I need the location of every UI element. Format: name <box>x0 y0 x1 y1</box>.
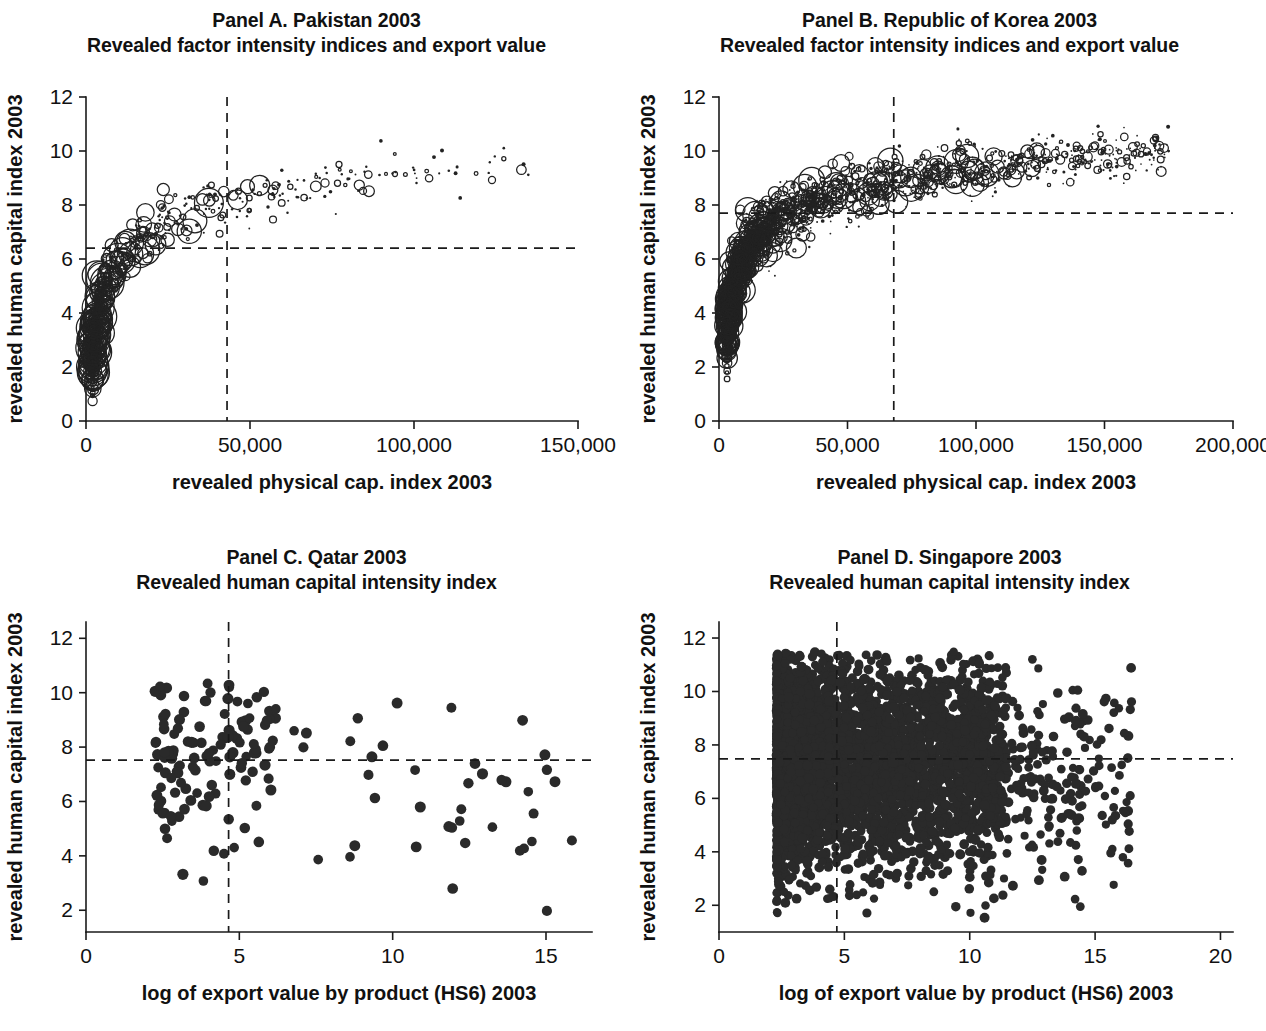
data-point <box>966 909 974 917</box>
data-point <box>935 693 945 703</box>
data-point <box>885 714 894 723</box>
data-point <box>179 691 190 702</box>
data-point <box>768 247 770 249</box>
x-tick-label: 0 <box>80 433 92 456</box>
data-point <box>936 704 944 712</box>
data-point <box>346 177 349 180</box>
data-point <box>1055 157 1059 161</box>
data-point <box>814 664 823 673</box>
data-point <box>796 844 805 853</box>
data-point <box>843 864 853 874</box>
data-point <box>934 756 943 765</box>
data-point <box>808 246 810 248</box>
data-point <box>1060 872 1070 882</box>
data-point <box>935 185 937 187</box>
data-point <box>817 649 826 658</box>
data-point <box>246 215 248 217</box>
data-point <box>924 182 927 185</box>
data-point <box>1062 183 1064 185</box>
data-point <box>125 252 128 255</box>
data-point <box>796 226 798 228</box>
data-point <box>460 838 470 848</box>
data-point <box>881 770 890 779</box>
data-point <box>744 265 746 267</box>
data-point <box>918 791 927 800</box>
data-point <box>806 222 808 224</box>
data-point <box>888 175 890 177</box>
data-point <box>937 175 940 178</box>
data-point <box>1098 811 1107 820</box>
data-point <box>96 333 99 336</box>
data-point <box>1019 728 1029 738</box>
panel-a-svg: 024681012050,000100,000150,000revealed p… <box>0 60 633 515</box>
data-point <box>1048 159 1052 163</box>
data-point <box>780 837 789 846</box>
data-point <box>981 162 984 165</box>
data-point <box>1045 823 1053 831</box>
data-point <box>391 172 393 174</box>
data-point <box>944 158 946 160</box>
data-point <box>203 213 205 215</box>
data-point <box>849 201 852 204</box>
data-point <box>835 187 839 191</box>
data-point <box>1055 829 1064 838</box>
data-point <box>1016 743 1025 752</box>
data-point <box>845 226 847 228</box>
data-point <box>1081 162 1084 165</box>
data-point <box>1115 704 1124 713</box>
data-point <box>862 908 871 917</box>
data-point <box>827 676 836 685</box>
data-point <box>807 178 810 181</box>
data-point <box>281 192 284 195</box>
data-point <box>797 662 807 672</box>
data-point <box>736 248 738 250</box>
data-point <box>245 713 255 723</box>
y-tick-label: 12 <box>683 85 706 108</box>
data-point <box>199 876 209 886</box>
data-point <box>1109 803 1118 812</box>
data-point <box>458 196 462 200</box>
x-tick-label: 0 <box>713 433 725 456</box>
data-point <box>970 716 978 724</box>
data-point <box>925 813 934 822</box>
data-point <box>1097 735 1106 744</box>
x-tick-label: 100,000 <box>376 433 452 456</box>
data-point <box>814 203 816 205</box>
data-point <box>923 855 933 865</box>
data-point <box>1135 170 1137 172</box>
data-point <box>1123 127 1125 129</box>
panel-b-title-line2: Revealed factor intensity indices and ex… <box>633 33 1266 58</box>
y-axis-title: revealed human capital index 2003 <box>637 612 659 941</box>
data-point <box>857 827 865 835</box>
data-point <box>908 177 911 180</box>
data-point <box>1098 139 1100 141</box>
y-tick-label: 0 <box>694 409 706 432</box>
data-point <box>91 374 93 376</box>
data-point <box>879 818 889 828</box>
x-tick-label: 0 <box>80 944 92 967</box>
data-point <box>205 208 207 210</box>
data-point <box>438 172 440 174</box>
data-point <box>1007 165 1010 168</box>
x-tick-label: 100,000 <box>938 433 1014 456</box>
data-point <box>765 199 767 201</box>
data-point <box>857 189 860 192</box>
data-point <box>837 737 847 747</box>
data-point <box>768 270 770 272</box>
data-point <box>879 182 881 184</box>
data-point <box>160 823 171 834</box>
data-bubble <box>354 180 364 190</box>
data-point <box>889 179 893 183</box>
data-point <box>937 171 941 175</box>
data-bubble <box>1157 156 1164 163</box>
panel-c-svg: 24681012051015log of export value by pro… <box>0 597 633 1031</box>
data-point <box>489 161 491 163</box>
data-point <box>824 696 834 706</box>
data-point <box>943 866 952 875</box>
data-point <box>920 665 930 675</box>
data-point <box>1111 166 1113 168</box>
data-point <box>772 732 781 741</box>
data-point <box>818 849 827 858</box>
data-point <box>249 739 259 749</box>
data-bubble <box>1089 143 1098 152</box>
